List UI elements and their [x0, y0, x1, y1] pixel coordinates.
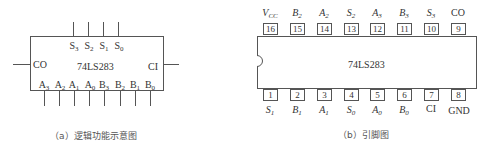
caption-pinout: （b）引脚图	[338, 128, 389, 141]
pin5: 5	[370, 89, 385, 101]
pin12: 12	[370, 23, 385, 35]
caption-logic-diagram: （a）逻辑功能示意图	[50, 129, 137, 142]
pin-line-s1	[103, 22, 104, 36]
pin6-label: B0	[397, 105, 411, 118]
pin-label-s1: S1	[97, 41, 111, 54]
pin11: 11	[397, 23, 412, 35]
pin-label-s0: S0	[112, 41, 126, 54]
pin5-label: A0	[370, 105, 384, 118]
pin1-label: S1	[263, 105, 277, 118]
pin7-label: CI	[424, 104, 438, 114]
pin-line-b1	[135, 91, 136, 106]
pin9-label: CO	[447, 8, 469, 18]
pin13-label: S2	[344, 8, 358, 21]
dip-chip-name: 74LS283	[348, 60, 385, 70]
pin-line-b0	[150, 91, 151, 106]
pin15: 15	[290, 23, 305, 35]
pin4: 4	[344, 89, 359, 101]
logic-chip-name: 74LS283	[77, 62, 114, 72]
pin-line-co	[13, 64, 30, 65]
pin-line-a1	[74, 91, 75, 106]
pin10: 10	[424, 23, 439, 35]
pin-line-b2	[120, 91, 121, 106]
pin8-label: GND	[446, 106, 472, 116]
pin8: 8	[451, 89, 466, 101]
pin6: 6	[397, 89, 412, 101]
pin-label-s3: S3	[67, 41, 81, 54]
pin2: 2	[290, 89, 305, 101]
pin16: 16	[263, 23, 278, 35]
pin3-label: A1	[317, 105, 331, 118]
pin-label-s2: S2	[82, 41, 96, 54]
pin-line-a2	[59, 91, 60, 106]
pin14-label: A2	[317, 8, 331, 21]
pin-line-a3	[44, 91, 45, 106]
pin13: 13	[344, 23, 359, 35]
pin-line-s3	[73, 22, 74, 36]
pin11-label: B3	[397, 8, 411, 21]
pin-line-s2	[88, 22, 89, 36]
pin-label-ci: CI	[148, 62, 158, 72]
pin16-label: VCC	[260, 8, 280, 21]
pin12-label: A3	[370, 8, 384, 21]
pin9: 9	[451, 23, 466, 35]
pin-label-co: CO	[33, 60, 47, 70]
pin4-label: S0	[344, 105, 358, 118]
pin14: 14	[317, 23, 332, 35]
pin2-label: B1	[290, 105, 304, 118]
chip-notch	[251, 55, 263, 67]
pin-line-ci	[164, 64, 179, 65]
pin-label-a0: A0	[83, 80, 97, 93]
pin-label-a2: A2	[53, 80, 67, 93]
pin10-label: S3	[424, 8, 438, 21]
pin-line-a0	[89, 91, 90, 106]
pin15-label: B2	[290, 8, 304, 21]
pin7: 7	[424, 89, 439, 101]
pin3: 3	[317, 89, 332, 101]
pin-line-s0	[118, 22, 119, 36]
pin1: 1	[263, 89, 278, 101]
pin-line-b3	[104, 91, 105, 106]
